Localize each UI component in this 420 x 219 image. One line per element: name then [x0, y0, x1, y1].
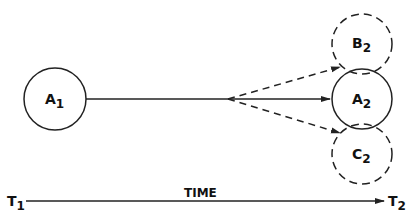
svg-text:T2: T2: [388, 193, 406, 213]
svg-text:C2: C2: [352, 146, 371, 166]
diagram-canvas: A1 B2 A2 C2 T1 TIME T2: [0, 0, 420, 219]
svg-text:A2: A2: [352, 91, 371, 111]
node-a2: A2: [332, 69, 392, 129]
time-axis: T1 TIME T2: [7, 186, 406, 213]
svg-text:B2: B2: [352, 35, 371, 55]
node-b2: B2: [332, 14, 392, 74]
svg-text:T1: T1: [7, 193, 25, 213]
transition-line-b: [228, 67, 340, 99]
node-c2: C2: [332, 124, 392, 184]
time-axis-title: TIME: [184, 186, 217, 200]
node-a1: A1: [24, 68, 86, 130]
transition-line-c: [228, 99, 340, 133]
svg-text:A1: A1: [45, 91, 64, 111]
